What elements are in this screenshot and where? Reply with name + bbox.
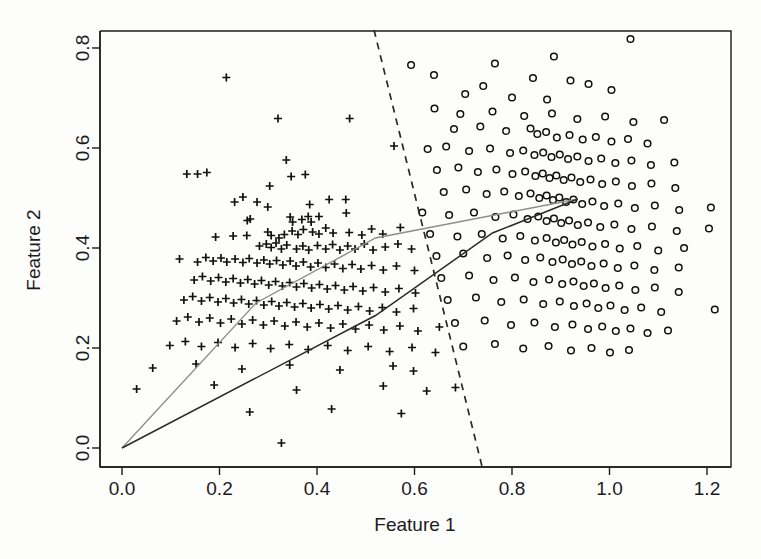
data-point-plus bbox=[214, 339, 222, 347]
data-point-plus bbox=[305, 246, 313, 254]
data-point-plus bbox=[238, 365, 246, 373]
data-point-plus bbox=[410, 367, 418, 375]
y-tick-label: 0.6 bbox=[72, 135, 93, 161]
data-point-plus bbox=[348, 261, 356, 269]
data-point-circle bbox=[492, 341, 499, 348]
data-point-circle bbox=[675, 289, 682, 296]
data-point-plus bbox=[176, 255, 184, 263]
data-point-circle bbox=[597, 224, 604, 231]
data-point-circle bbox=[591, 280, 598, 287]
data-point-plus bbox=[279, 261, 287, 269]
data-point-circle bbox=[516, 193, 523, 200]
data-point-circle bbox=[578, 239, 585, 246]
data-point-plus bbox=[431, 349, 439, 357]
data-point-circle bbox=[531, 152, 538, 159]
data-point-plus bbox=[336, 366, 344, 374]
data-point-plus bbox=[389, 362, 397, 370]
data-point-plus bbox=[243, 232, 251, 240]
data-point-circle bbox=[471, 209, 478, 216]
data-point-circle bbox=[600, 260, 607, 267]
data-point-plus bbox=[313, 242, 321, 250]
data-point-plus bbox=[396, 224, 404, 232]
data-point-circle bbox=[593, 134, 600, 141]
data-point-circle bbox=[554, 134, 561, 141]
data-point-circle bbox=[589, 198, 596, 205]
data-point-plus bbox=[249, 316, 257, 324]
data-point-circle bbox=[628, 157, 635, 164]
data-point-circle bbox=[598, 155, 605, 162]
data-point-circle bbox=[452, 320, 459, 327]
data-point-plus bbox=[342, 196, 350, 204]
data-point-plus bbox=[239, 193, 247, 201]
data-point-circle bbox=[520, 296, 527, 303]
data-point-plus bbox=[329, 229, 337, 237]
data-point-circle bbox=[673, 228, 680, 235]
data-point-circle bbox=[551, 215, 558, 222]
data-point-plus bbox=[314, 259, 322, 267]
data-point-plus bbox=[408, 344, 416, 352]
data-point-circle bbox=[527, 125, 534, 132]
data-point-circle bbox=[625, 136, 632, 143]
data-point-plus bbox=[173, 317, 181, 325]
data-point-circle bbox=[599, 181, 606, 188]
data-point-plus bbox=[287, 173, 295, 181]
data-point-circle bbox=[509, 171, 516, 178]
data-point-plus bbox=[166, 342, 174, 350]
x-tick-label: 0.4 bbox=[304, 478, 331, 499]
data-point-circle bbox=[601, 203, 608, 210]
data-point-circle bbox=[569, 321, 576, 328]
data-point-circle bbox=[671, 159, 678, 166]
data-point-circle bbox=[532, 173, 539, 180]
data-point-circle bbox=[443, 143, 450, 150]
data-point-circle bbox=[463, 186, 470, 193]
data-point-circle bbox=[559, 256, 566, 263]
data-point-plus bbox=[223, 258, 231, 266]
data-point-circle bbox=[512, 274, 519, 281]
data-point-plus bbox=[392, 262, 400, 270]
data-point-plus bbox=[394, 240, 402, 248]
data-point-plus bbox=[344, 242, 352, 250]
data-point-circle bbox=[498, 299, 505, 306]
data-point-plus bbox=[414, 327, 422, 335]
data-point-circle bbox=[522, 257, 529, 264]
data-point-plus bbox=[184, 313, 192, 321]
data-point-plus bbox=[332, 282, 340, 290]
data-point-plus bbox=[133, 385, 141, 393]
data-point-plus bbox=[260, 301, 268, 309]
data-point-circle bbox=[536, 195, 543, 202]
data-point-plus bbox=[183, 170, 191, 178]
data-point-circle bbox=[616, 245, 623, 252]
data-point-circle bbox=[446, 212, 453, 219]
data-point-plus bbox=[390, 142, 398, 150]
data-point-plus bbox=[273, 257, 281, 265]
data-point-circle bbox=[521, 113, 528, 120]
data-point-circle bbox=[478, 231, 485, 238]
data-point-circle bbox=[559, 281, 566, 288]
data-point-plus bbox=[197, 297, 205, 305]
data-point-circle bbox=[548, 154, 555, 161]
data-point-circle bbox=[706, 225, 713, 232]
data-point-circle bbox=[493, 166, 500, 173]
data-point-plus bbox=[410, 305, 418, 313]
data-point-plus bbox=[189, 293, 197, 301]
data-point-circle bbox=[602, 241, 609, 248]
data-point-circle bbox=[602, 285, 609, 292]
data-point-circle bbox=[608, 87, 615, 94]
data-point-plus bbox=[315, 281, 323, 289]
data-point-circle bbox=[571, 303, 578, 310]
data-point-plus bbox=[231, 344, 239, 352]
data-point-plus bbox=[259, 321, 267, 329]
x-tick-label: 0.0 bbox=[109, 478, 135, 499]
data-point-circle bbox=[708, 204, 715, 211]
data-point-circle bbox=[588, 345, 595, 352]
data-point-circle bbox=[440, 189, 447, 196]
data-point-plus bbox=[300, 280, 308, 288]
data-point-plus bbox=[339, 265, 347, 273]
data-point-circle bbox=[621, 307, 628, 314]
data-point-circle bbox=[540, 301, 547, 308]
data-point-plus bbox=[397, 410, 405, 418]
data-point-circle bbox=[614, 265, 621, 272]
data-point-plus bbox=[281, 322, 289, 330]
data-point-circle bbox=[492, 60, 499, 67]
data-point-plus bbox=[266, 260, 274, 268]
